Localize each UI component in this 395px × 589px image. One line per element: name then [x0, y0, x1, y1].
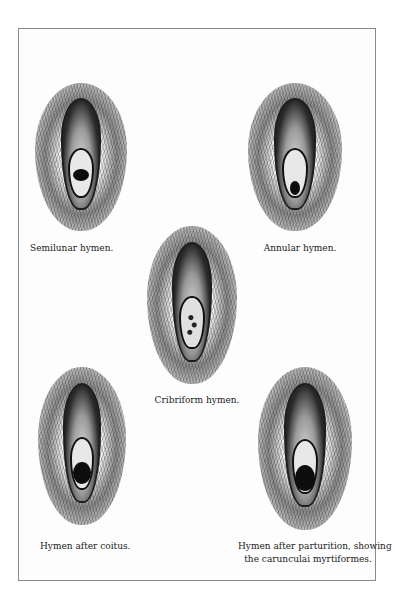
figure-cribriform-hymen: [147, 226, 237, 384]
cut-off-footer-text: [30, 584, 370, 589]
caption-hymen-after-parturition-line1: Hymen after parturition, showing: [238, 540, 378, 553]
caption-cribriform-hymen: Cribriform hymen.: [152, 394, 242, 407]
caption-semilunar-hymen: Semilunar hymen.: [30, 242, 110, 255]
figure-hymen-after-parturition: [258, 367, 352, 530]
caption-hymen-after-parturition-line2: the carunculai myrtiformes.: [238, 553, 378, 566]
engraving-orifice: [73, 462, 91, 484]
engraving-orifice: [290, 181, 300, 195]
caption-hymen-after-coitus: Hymen after coitus.: [40, 540, 120, 553]
engraving-orifice: [73, 169, 89, 181]
figure-hymen-after-coitus: [38, 367, 126, 525]
engraving-orifice: [295, 465, 315, 491]
engraving-inner: [179, 296, 204, 350]
caption-annular-hymen: Annular hymen.: [260, 242, 340, 255]
figure-annular-hymen: [248, 83, 342, 231]
figure-semilunar-hymen: [35, 83, 127, 231]
